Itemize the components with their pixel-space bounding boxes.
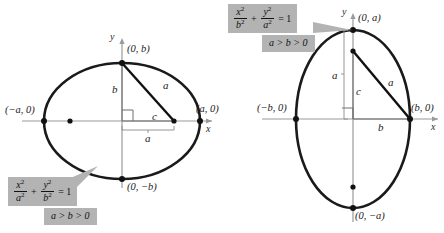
- right-y-axis-label: y: [342, 7, 346, 17]
- right-x-axis-label: x: [431, 122, 435, 132]
- left-vertex-top-label: (0, b): [127, 44, 150, 55]
- right-vertex-left-dot: [293, 116, 299, 122]
- left-eq-plus: +: [29, 187, 39, 197]
- right-condition-callout: a > b > 0: [262, 35, 315, 52]
- right-eq-den2: a2: [261, 19, 274, 30]
- right-focus-bottom-dot: [350, 184, 355, 189]
- left-focus-right-dot: [171, 118, 176, 123]
- left-semi-minor-label: b: [112, 84, 118, 95]
- right-vertex-right-dot: [407, 116, 413, 122]
- right-vertex-left-label: (−b, 0): [257, 103, 287, 114]
- right-y-axis-arrow: [350, 13, 355, 19]
- left-bracket-label: a: [145, 133, 151, 144]
- right-bracket-label: a: [332, 70, 338, 81]
- left-vertex-right-dot: [197, 118, 203, 124]
- left-bracket: [122, 126, 174, 130]
- left-y-axis-label: y: [110, 32, 114, 42]
- left-vertex-bottom-dot: [119, 176, 125, 182]
- left-equation-callout: x2 a2 + y2 b2 = 1: [8, 177, 77, 206]
- left-focus-left-dot: [67, 118, 72, 123]
- left-eq-equals: = 1: [56, 187, 71, 197]
- right-vertex-bottom-label: (0, −a): [355, 211, 385, 222]
- right-bracket: [344, 30, 348, 119]
- right-hypotenuse-label: a: [388, 77, 394, 88]
- right-vertex-right-label: (b, 0): [411, 103, 434, 114]
- left-vertex-bottom-label: (0, −b): [127, 182, 157, 193]
- left-eq-frac1: x2 a2: [14, 180, 27, 203]
- figure-canvas: y x (0, b) (0, −b) (−a, 0) (a, 0) b c a …: [0, 0, 444, 233]
- left-eq-den2: b2: [41, 192, 54, 203]
- left-hypotenuse-label: a: [163, 80, 169, 91]
- right-vertex-top-label: (0, a): [358, 13, 381, 24]
- right-focus-top-dot: [350, 48, 355, 53]
- right-equation-callout: x2 b2 + y2 a2 = 1: [228, 4, 297, 33]
- left-diagram-group: [22, 38, 212, 190]
- left-eq-frac2: y2 b2: [41, 180, 54, 203]
- left-right-angle-marker: [122, 110, 133, 121]
- left-eq-den1: a2: [14, 192, 27, 203]
- right-eq-equals: = 1: [276, 14, 291, 24]
- right-hypotenuse-segment: [353, 51, 410, 119]
- left-vertex-left-label: (−a, 0): [5, 105, 35, 116]
- right-eq-frac1: x2 b2: [234, 7, 247, 30]
- right-eq-plus: +: [249, 14, 259, 24]
- left-focal-label: c: [152, 111, 157, 122]
- right-focal-label: c: [356, 86, 361, 97]
- left-vertex-left-dot: [41, 118, 47, 124]
- left-vertex-right-label: (a, 0): [196, 104, 219, 115]
- right-semi-minor-label: b: [378, 122, 384, 133]
- left-x-axis-label: x: [206, 124, 210, 134]
- right-eq-frac2: y2 a2: [261, 7, 274, 30]
- left-y-axis-arrow: [119, 38, 124, 44]
- left-vertex-top-dot: [119, 60, 125, 66]
- left-condition-callout: a > b > 0: [44, 208, 97, 225]
- right-eq-den1: b2: [234, 19, 247, 30]
